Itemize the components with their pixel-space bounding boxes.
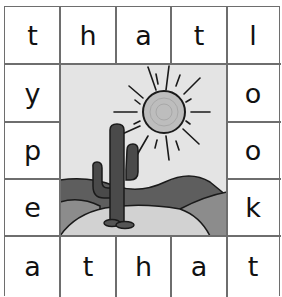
letter: o [245,137,262,164]
grid-line [59,64,61,297]
letter-cell[interactable]: t [5,7,60,64]
letter-cell[interactable]: l [227,7,279,64]
letter: t [27,22,38,49]
letter-cell[interactable]: t [171,7,227,64]
letter: t [83,253,94,280]
letter: e [24,194,41,221]
letter-cell[interactable]: a [171,236,227,296]
letter: k [245,194,261,221]
letter: l [249,22,257,49]
grid-line [59,7,61,64]
grid-line [226,178,281,180]
letter: a [24,253,41,280]
letter: h [135,253,152,280]
letter-cell[interactable]: t [60,236,116,296]
letter: o [245,80,262,107]
word-grid-board: t h a t l y p e o o k a t h a t [4,6,280,296]
letter-cell[interactable]: e [5,179,60,236]
letter: a [191,253,208,280]
grid-line [170,236,172,297]
grid-line [226,121,281,123]
grid-line [5,121,60,123]
letter-cell[interactable]: o [227,122,279,179]
letter: t [248,253,259,280]
grid-line [115,7,117,64]
letter: y [25,80,41,107]
grid-line [5,235,281,237]
grid-line [5,63,281,65]
letter-cell[interactable]: o [227,64,279,122]
grid-line [170,7,172,64]
letter: h [79,22,96,49]
desert-picture [60,64,227,236]
letter-cell[interactable]: k [227,179,279,236]
letter-cell[interactable]: y [5,64,60,122]
letter-cell[interactable]: p [5,122,60,179]
letter-cell[interactable]: t [227,236,279,296]
letter-cell[interactable]: a [5,236,60,296]
grid-line [115,236,117,297]
letter-cell[interactable]: h [116,236,171,296]
grid-line [5,178,60,180]
letter: p [24,137,41,164]
letter-cell[interactable]: h [60,7,116,64]
letter: t [194,22,205,49]
letter-cell[interactable]: a [116,7,171,64]
letter: a [135,22,152,49]
grid-line [226,7,228,297]
